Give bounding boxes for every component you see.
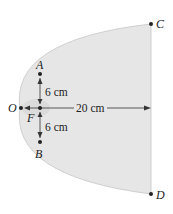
label-C: C — [156, 17, 165, 31]
point-B — [38, 140, 42, 144]
label-D: D — [155, 188, 165, 202]
point-O — [19, 106, 23, 110]
label-B: B — [35, 147, 43, 161]
dim-label-axis: 20 cm — [76, 102, 104, 114]
label-F: F — [26, 111, 35, 125]
label-A: A — [35, 58, 44, 72]
label-O: O — [8, 101, 17, 115]
dim-label-lower: 6 cm — [45, 121, 68, 133]
point-D — [149, 192, 153, 196]
point-F — [38, 106, 42, 110]
dim-label-upper: 6 cm — [45, 86, 68, 98]
point-A — [38, 72, 42, 76]
point-C — [149, 22, 153, 26]
parabolic-reflector-diagram: A B C D O F 6 cm 6 cm 20 cm — [0, 0, 173, 214]
